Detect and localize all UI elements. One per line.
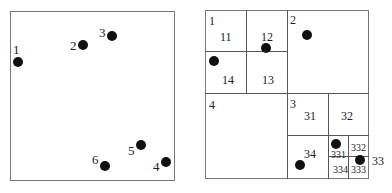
region-label-4: 4	[209, 99, 215, 111]
quadtree-point-2	[302, 30, 312, 40]
divider-vertical-main	[287, 10, 288, 179]
quadtree-point-331	[331, 139, 341, 149]
point-3	[107, 31, 117, 41]
region-label-14: 14	[222, 74, 234, 86]
point-label-3: 3	[99, 26, 106, 39]
point-label-2: 2	[70, 39, 77, 52]
region-label-13: 13	[262, 74, 274, 86]
region-label-3: 3	[290, 98, 296, 110]
point-5	[136, 140, 146, 150]
quadtree-point-333	[355, 155, 365, 165]
quadtree-point-34	[295, 160, 305, 170]
point-1	[13, 57, 23, 67]
region-label-34: 34	[304, 148, 316, 160]
region-label-332: 332	[351, 143, 366, 153]
divider-q1-horizontal	[205, 51, 287, 52]
quadtree-point-12	[261, 43, 271, 53]
region-label-12: 12	[261, 31, 273, 43]
region-label-11: 11	[220, 31, 232, 43]
divider-horizontal-main	[205, 93, 369, 94]
region-label-31: 31	[304, 110, 316, 122]
region-label-331: 331	[331, 150, 346, 160]
point-6	[100, 161, 110, 171]
region-label-1: 1	[209, 15, 215, 27]
region-label-33: 33	[372, 155, 384, 167]
quadtree-point-14	[209, 56, 219, 66]
region-label-334: 334	[333, 165, 348, 175]
divider-q33-vertical	[348, 135, 349, 179]
region-label-32: 32	[341, 110, 353, 122]
region-label-333: 333	[351, 165, 366, 175]
point-label-1: 1	[13, 43, 20, 56]
point-4	[161, 157, 171, 167]
point-label-4: 4	[153, 160, 160, 173]
point-2	[78, 40, 88, 50]
point-label-5: 5	[128, 144, 135, 157]
region-label-2: 2	[290, 14, 296, 26]
divider-q3-vertical	[328, 93, 329, 179]
point-label-6: 6	[92, 153, 99, 166]
divider-q3-horizontal	[287, 135, 369, 136]
